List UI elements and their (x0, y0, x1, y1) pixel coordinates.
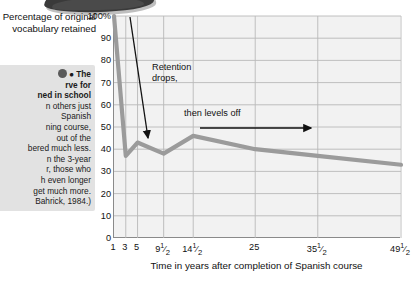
x-tick-label: 351⁄2 (307, 242, 327, 257)
annotation-line-2: drops, (152, 73, 178, 83)
annotation-text: then levels off (184, 108, 241, 118)
annotation-line-1: Retention (152, 62, 191, 72)
y-tick-label: 50 (101, 122, 111, 132)
y-tick-label: 90 (101, 33, 111, 43)
y-tick-label: 40 (101, 144, 111, 154)
x-tick-label: 5 (134, 242, 139, 252)
retention-line-chart: 100%9080706050403020100 Retention drops,… (99, 14, 399, 288)
horizontal-gridlines (114, 16, 401, 216)
x-tick-label: 1 (110, 242, 115, 252)
y-tick-label: 80 (101, 55, 111, 65)
retention-drops-arrow (130, 17, 148, 138)
y-tick-label: 70 (101, 78, 111, 88)
x-tick-label: 491⁄2 (390, 242, 410, 257)
x-tick-label: 25 (249, 242, 259, 252)
annotation-retention-drops: Retention drops, (152, 62, 191, 84)
y-tick-label: 30 (101, 166, 111, 176)
plot-svg (114, 16, 401, 238)
y-tick-label: 60 (101, 100, 111, 110)
plot-area: Retention drops, then levels off (113, 16, 400, 238)
x-tick-label: 3 (122, 242, 127, 252)
y-tick-label: 100% (88, 11, 112, 21)
y-axis-tick-labels: 100%9080706050403020100 (53, 16, 111, 238)
x-tick-label: 141⁄2 (182, 242, 202, 257)
x-axis-title: Time in years after completion of Spanis… (113, 260, 400, 271)
y-tick-label: 20 (101, 189, 111, 199)
x-tick-label: 91⁄2 (155, 242, 170, 257)
y-tick-label: 10 (101, 211, 111, 221)
annotation-then-levels-off: then levels off (184, 108, 241, 119)
x-axis-tick-labels: 13591⁄2141⁄225351⁄2491⁄2 (113, 242, 400, 256)
